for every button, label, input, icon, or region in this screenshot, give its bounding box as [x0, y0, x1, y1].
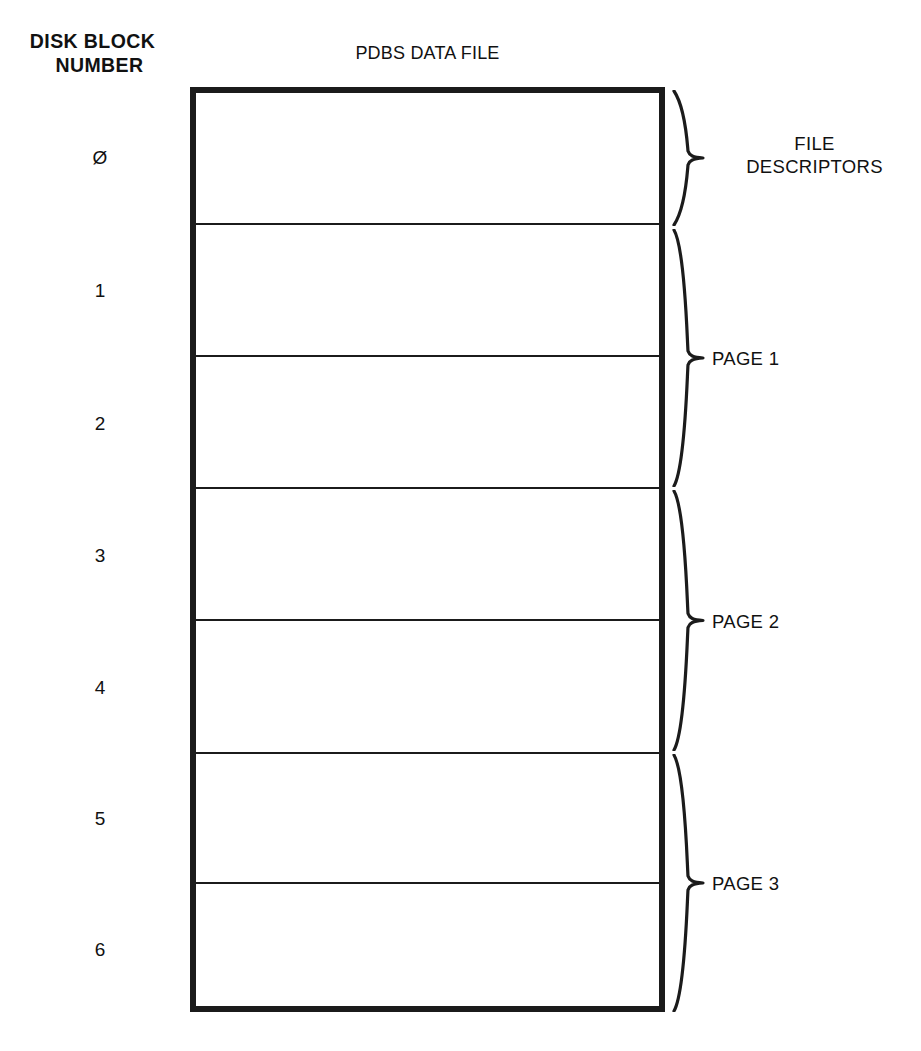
block-number-6: 6 [40, 940, 160, 959]
block-divider-0 [190, 223, 665, 225]
group-label-page-1: PAGE 1 [712, 347, 917, 370]
block-number-0: Ø [40, 148, 160, 167]
pdbs-data-file-title: PDBS DATA FILE [190, 43, 665, 64]
group-label-line-1: FILE [712, 132, 917, 155]
block-number-5: 5 [40, 809, 160, 828]
diagram-canvas: DISK BLOCK NUMBER PDBS DATA FILE Ø123456… [0, 0, 921, 1051]
brace-page-3 [672, 754, 706, 1012]
block-divider-1 [190, 355, 665, 357]
group-label-page-3: PAGE 3 [712, 872, 917, 895]
block-number-4: 4 [40, 678, 160, 697]
block-divider-4 [190, 752, 665, 754]
brace-page-1 [672, 229, 706, 487]
block-number-2: 2 [40, 414, 160, 433]
block-number-3: 3 [40, 546, 160, 565]
group-label-line-1: PAGE 3 [712, 872, 917, 895]
pdbs-data-file-box [190, 87, 665, 1012]
block-divider-5 [190, 882, 665, 884]
heading-line-2: NUMBER [0, 54, 185, 78]
heading-line-1: DISK BLOCK [0, 30, 185, 54]
block-divider-2 [190, 487, 665, 489]
brace-file-descriptors [672, 90, 706, 226]
group-label-file-descriptors: FILEDESCRIPTORS [712, 132, 917, 178]
block-number-1: 1 [40, 281, 160, 300]
group-label-line-1: PAGE 1 [712, 347, 917, 370]
group-label-line-2: DESCRIPTORS [712, 155, 917, 178]
disk-block-number-heading: DISK BLOCK NUMBER [0, 30, 185, 78]
block-divider-3 [190, 619, 665, 621]
brace-page-2 [672, 490, 706, 751]
group-label-line-1: PAGE 2 [712, 610, 917, 633]
group-label-page-2: PAGE 2 [712, 610, 917, 633]
